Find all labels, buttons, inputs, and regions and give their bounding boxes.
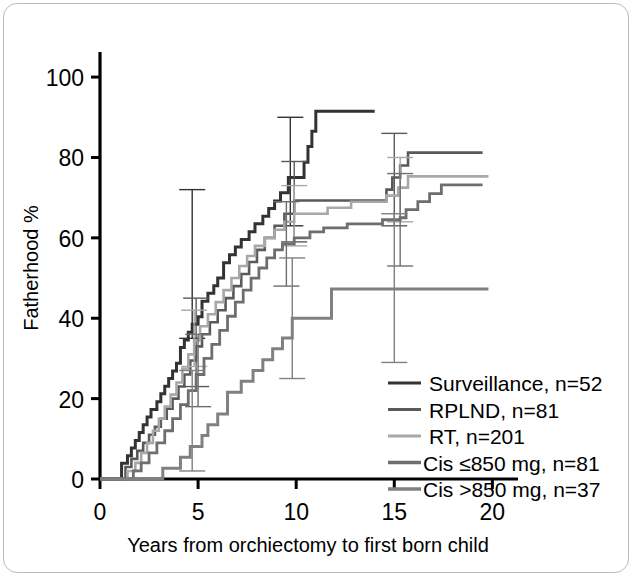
x-axis-title: Years from orchiectomy to first born chi… (127, 534, 489, 556)
y-tick-label: 40 (58, 306, 84, 332)
y-tick-label: 0 (71, 467, 84, 493)
y-axis-title: Fatherhood % (20, 205, 42, 331)
kaplan-meier-chart: 02040608010005101520Years from orchiecto… (0, 0, 632, 576)
figure-container: 02040608010005101520Years from orchiecto… (0, 0, 632, 576)
legend-label-3: Cis ≤850 mg, n=81 (423, 452, 600, 475)
x-tick-label: 10 (283, 499, 309, 525)
x-tick-label: 5 (192, 499, 205, 525)
y-tick-label: 20 (58, 387, 84, 413)
x-tick-label: 20 (480, 499, 506, 525)
x-tick-label: 15 (381, 499, 407, 525)
y-tick-label: 100 (46, 65, 84, 91)
legend-label-2: RT, n=201 (429, 425, 525, 448)
legend-label-0: Surveillance, n=52 (429, 372, 602, 395)
legend-label-4: Cis >850 mg, n=37 (423, 478, 600, 501)
error-bar (277, 117, 303, 226)
y-tick-label: 60 (58, 226, 84, 252)
y-tick-label: 80 (58, 145, 84, 171)
series-line-0 (100, 111, 375, 479)
error-bar (381, 133, 407, 225)
legend-label-1: RPLND, n=81 (429, 399, 559, 422)
x-tick-label: 0 (94, 499, 107, 525)
